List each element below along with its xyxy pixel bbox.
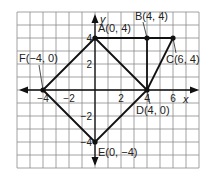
point-a (92, 35, 97, 40)
x-axis-arrow-left-icon (19, 87, 28, 94)
point-label-e: E(0, −4) (98, 146, 137, 158)
point-d (144, 87, 149, 92)
coordinate-plane: x y −4−224642−2−4 A(0, 4) B(4, 4) C(6, 4… (0, 0, 211, 183)
x-tick-label: 2 (118, 93, 124, 104)
leader-line-f (39, 65, 43, 90)
point-c (170, 35, 175, 40)
x-tick-label: −2 (63, 93, 75, 104)
point-label-f: F(−4, 0) (19, 52, 58, 64)
x-axis-label: x (182, 93, 189, 105)
point-f (40, 87, 45, 92)
point-label-b: B(4, 4) (135, 10, 168, 22)
y-tick-label: −2 (81, 111, 93, 122)
y-axis-arrow-down-icon (92, 157, 99, 166)
point-label-d: D(4, 0) (136, 104, 170, 116)
x-tick-label: 6 (170, 93, 176, 104)
y-tick-label: 2 (86, 59, 92, 70)
point-b (144, 35, 149, 40)
point-labels: A(0, 4) B(4, 4) C(6, 4) D(4, 0) E(0, −4)… (19, 10, 200, 158)
x-axis-arrow-right-icon (190, 87, 199, 94)
point-e (92, 139, 97, 144)
label-leader-lines (39, 22, 176, 104)
point-label-a: A(0, 4) (98, 22, 131, 34)
point-label-c: C(6, 4) (166, 53, 200, 65)
